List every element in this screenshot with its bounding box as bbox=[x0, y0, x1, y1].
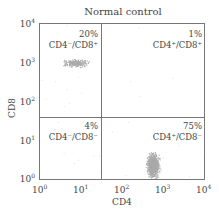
y-tick-4: 104 bbox=[20, 17, 35, 29]
quadrant-vertical-divider bbox=[101, 24, 102, 179]
x-tick-0: 100 bbox=[32, 183, 47, 195]
y-tick-2: 102 bbox=[20, 95, 35, 107]
y-axis-label: CD8 bbox=[7, 98, 17, 118]
quadrant-ul: 20%CD4⁻/CD8⁺ bbox=[42, 29, 98, 51]
x-tick-3: 103 bbox=[155, 183, 170, 195]
x-tick-2: 102 bbox=[114, 183, 129, 195]
x-tick-1: 101 bbox=[73, 183, 88, 195]
y-tick-3: 103 bbox=[20, 56, 35, 68]
quadrant-ur: 1%CD4⁺/CD8⁺ bbox=[104, 29, 202, 51]
y-tick-1: 101 bbox=[20, 134, 35, 146]
x-axis-label: CD4 bbox=[112, 197, 132, 207]
quadrant-lr: 75%CD4⁺/CD8⁻ bbox=[104, 121, 202, 143]
quadrant-horizontal-divider bbox=[40, 117, 204, 118]
x-tick-4: 104 bbox=[196, 183, 211, 195]
plot-area: 20%CD4⁻/CD8⁺ 1%CD4⁺/CD8⁺ 4%CD4⁻/CD8⁻ 75%… bbox=[39, 23, 205, 180]
quadrant-ll: 4%CD4⁻/CD8⁻ bbox=[42, 121, 98, 143]
